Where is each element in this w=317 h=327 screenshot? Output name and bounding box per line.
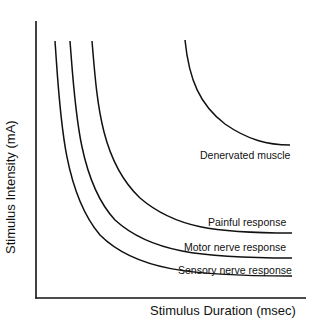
label-sensory-nerve-response: Sensory nerve response [178,264,292,276]
x-axis-label: Stimulus Duration (msec) [150,303,296,318]
y-axis-label: Stimulus Intensity (mA) [3,120,18,254]
curve-denervated-muscle [185,40,290,145]
label-painful-response: Painful response [208,216,286,228]
label-motor-nerve-response: Motor nerve response [184,241,286,253]
label-denervated-muscle: Denervated muscle [200,149,290,161]
curve-painful-response [92,41,292,233]
strength-duration-chart [0,0,317,327]
